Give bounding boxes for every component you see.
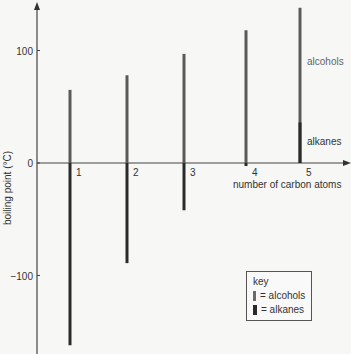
alkanes-swatch-icon [253,305,257,315]
x-axis-arrow-icon [343,160,351,166]
y-axis-label: boiling point (°C) [2,151,13,225]
x-axis-label: number of carbon atoms [233,179,341,190]
x-tick-label: 1 [76,167,82,178]
y-tick-label: 0 [27,158,33,169]
alkanes-annotation: alkanes [307,136,341,147]
y-axis-arrow-icon [34,2,40,10]
legend-item-alcohols: = alcohols [253,289,311,303]
y-tick-label: −100 [10,271,33,282]
legend-label-alkanes: = alkanes [261,303,304,317]
legend-item-alkanes: = alkanes [253,303,311,317]
alcohols-swatch-icon [253,291,256,301]
x-tick-label: 3 [190,167,196,178]
x-tick-label: 4 [252,167,258,178]
legend-title: key [253,275,311,289]
legend: key = alcohols = alkanes [246,271,312,321]
alcohols-annotation: alcohols [307,56,344,67]
y-tick-label: 100 [16,46,33,57]
x-tick-label: 2 [133,167,139,178]
x-tick-label: 5 [306,167,312,178]
legend-label-alcohols: = alcohols [260,289,305,303]
